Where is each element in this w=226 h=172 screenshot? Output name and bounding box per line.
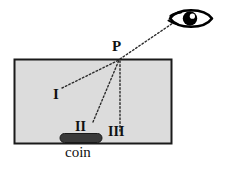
coin-label: coin (65, 145, 91, 160)
diagram-canvas (0, 0, 226, 172)
point-p-label: P (112, 39, 121, 54)
eye-icon (169, 10, 213, 27)
sight-line-to-eye (120, 23, 173, 59)
physics-diagram: P I II III coin (0, 0, 226, 172)
coin-shape (60, 134, 102, 143)
ray-one-label: I (53, 87, 59, 102)
ray-two-label: II (75, 120, 86, 134)
ray-three-label: III (108, 125, 124, 139)
